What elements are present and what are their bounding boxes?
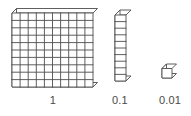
block-rod-tenth: [112, 8, 136, 88]
label-value-hundredth: 0.01: [148, 94, 191, 107]
label-value-one: 1: [8, 94, 98, 107]
unit-cube-graphic: [160, 62, 180, 82]
block-unit-hundredth: [160, 62, 180, 82]
base-ten-blocks-figure: 1 0.1 0.01: [0, 0, 191, 116]
block-flat-one: [8, 5, 100, 91]
label-value-tenth: 0.1: [100, 94, 140, 107]
rod-block-graphic: [112, 8, 136, 88]
flat-block-graphic: [8, 5, 100, 91]
